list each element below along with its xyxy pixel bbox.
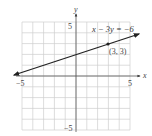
equation-label: x − 3y = −6 [91, 24, 135, 34]
y-min-label: −5 [64, 124, 73, 133]
x-max-label: 5 [128, 79, 132, 88]
x-min-label: −5 [16, 79, 25, 88]
y-axis-label: y [73, 5, 78, 14]
x-axis-label: x [142, 71, 147, 80]
y-max-label: 5 [68, 22, 72, 31]
coordinate-plane: x y −5 5 5 −5 x − 3y = −6 (3, 3) [0, 0, 152, 136]
point-3-3 [106, 42, 109, 45]
point-label: (3, 3) [109, 47, 127, 56]
